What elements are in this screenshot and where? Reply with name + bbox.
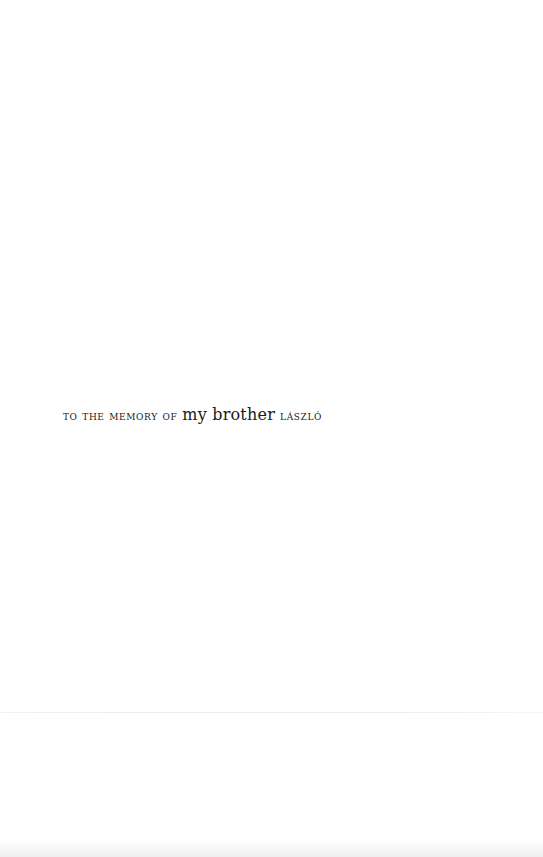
dedication-middle: my brother: [182, 405, 275, 424]
page-bottom-shade: [0, 841, 543, 857]
page-edge-line: [0, 712, 543, 713]
dedication-line: To the memory of my brother László: [63, 405, 322, 426]
dedication-prefix: To the memory of: [63, 408, 177, 423]
dedication-name: László: [280, 408, 322, 423]
